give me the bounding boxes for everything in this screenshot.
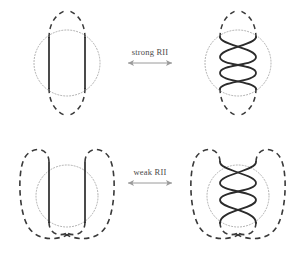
braid-strand-b	[220, 37, 256, 89]
strong-rii-left-diagram	[17, 8, 117, 118]
weak-rii-right-diagram	[184, 138, 292, 252]
weak-rii-left-diagram	[13, 138, 121, 252]
weak-rii-relation: weak RII	[110, 167, 190, 188]
strong-rii-label: strong RII	[110, 47, 190, 57]
double-arrow-icon	[122, 58, 178, 68]
strong-rii-right-diagram	[188, 8, 288, 118]
dotted-circle	[207, 165, 269, 227]
dashed-loop-right	[65, 150, 114, 239]
double-arrow-icon	[122, 178, 178, 188]
dashed-inner-arc-right	[238, 222, 256, 235]
dotted-circle	[34, 30, 100, 96]
dashed-inner-arc-left	[220, 222, 238, 235]
strong-rii-relation: strong RII	[110, 47, 190, 68]
knot-diagram-figure: strong RII weak RII	[0, 0, 293, 260]
dashed-loop-left	[20, 150, 69, 239]
dashed-lens-arc-bottom-left	[220, 88, 238, 116]
dotted-circle	[36, 165, 98, 227]
weak-rii-label: weak RII	[110, 167, 190, 177]
braid-strand-a	[220, 162, 256, 223]
dashed-inner-arc-left	[49, 222, 67, 235]
dashed-loop-left	[191, 150, 240, 239]
dotted-circle	[205, 30, 271, 96]
dashed-lens-arc-bottom-left	[49, 88, 67, 116]
braid-strand-b	[220, 162, 256, 223]
dashed-inner-arc-right	[67, 222, 85, 235]
dashed-loop-right	[236, 150, 285, 239]
